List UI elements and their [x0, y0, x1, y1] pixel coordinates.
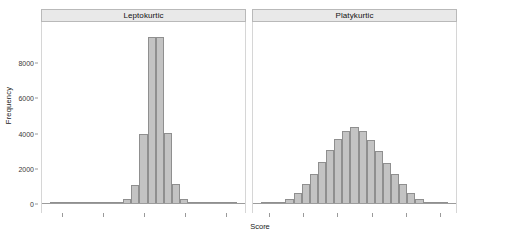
x-tick-mark [440, 213, 441, 217]
y-tick-mark [35, 63, 38, 64]
x-axis-title: Score [0, 222, 520, 231]
plot-area-platykurtic [252, 22, 457, 213]
histogram-bar [164, 133, 172, 204]
axis-baseline-platykurtic [253, 203, 456, 204]
y-tick-mark [35, 133, 38, 134]
histogram-bar [172, 184, 180, 204]
histogram-bar [148, 37, 156, 204]
axis-baseline-leptokurtic [42, 203, 245, 204]
x-tick-mark [185, 213, 186, 217]
histogram-bar [359, 131, 367, 204]
histogram-bar [326, 150, 334, 204]
panel-leptokurtic: Leptokurtic [41, 9, 246, 213]
x-tick-mark [406, 213, 407, 217]
x-tick-mark [337, 213, 338, 217]
panel-strip-platykurtic: Platykurtic [252, 9, 457, 22]
histogram-bars-leptokurtic [42, 22, 245, 213]
histogram-bar [399, 184, 407, 204]
y-tick-label: 6000 [18, 95, 34, 102]
panel-strip-label-leptokurtic: Leptokurtic [123, 11, 163, 20]
trellis-histogram-figure: Frequency 02000400060008000 Leptokurtic … [0, 0, 520, 248]
y-axis-ticks: 02000400060008000 [14, 0, 38, 248]
panel-platykurtic: Platykurtic [252, 9, 457, 213]
histogram-bar [391, 174, 399, 204]
y-tick-mark [35, 98, 38, 99]
x-tick-mark [372, 213, 373, 217]
histogram-bar [383, 163, 391, 204]
x-tick-mark [226, 213, 227, 217]
y-tick-label: 2000 [18, 165, 34, 172]
x-tick-mark [303, 213, 304, 217]
y-axis-title-text: Frequency [5, 86, 14, 123]
y-tick-mark [35, 168, 38, 169]
plot-area-leptokurtic [41, 22, 246, 213]
x-tick-mark [144, 213, 145, 217]
histogram-bar [318, 162, 326, 204]
histogram-bar [342, 131, 350, 204]
histogram-bar [131, 185, 139, 204]
histogram-bar [156, 37, 164, 204]
y-tick-label: 4000 [18, 130, 34, 137]
histogram-bar [310, 174, 318, 204]
x-tick-mark [103, 213, 104, 217]
x-axis-ticks-platykurtic [252, 213, 457, 219]
y-tick-mark [35, 204, 38, 205]
histogram-bar [367, 140, 375, 204]
histogram-bars-platykurtic [253, 22, 456, 213]
y-tick-label: 0 [30, 201, 34, 208]
x-axis-ticks-leptokurtic [41, 213, 246, 219]
histogram-bar [302, 184, 310, 204]
histogram-bar [334, 139, 342, 204]
histogram-bar [350, 127, 358, 204]
panel-strip-label-platykurtic: Platykurtic [336, 11, 374, 20]
y-tick-label: 8000 [18, 60, 34, 67]
histogram-bar [139, 134, 147, 204]
x-tick-mark [62, 213, 63, 217]
panel-strip-leptokurtic: Leptokurtic [41, 9, 246, 22]
histogram-bar [375, 151, 383, 204]
x-tick-mark [269, 213, 270, 217]
